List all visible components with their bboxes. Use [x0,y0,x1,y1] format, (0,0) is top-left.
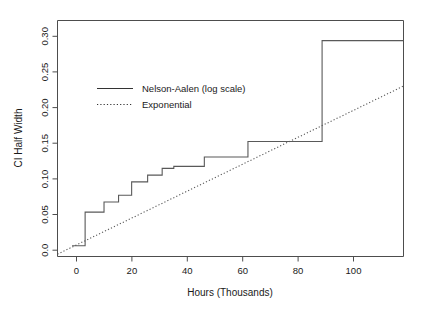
y-tick-label-005: 0.05 [39,205,50,224]
y-axis-title: CI Half Width [13,109,24,168]
x-tick-label-60: 60 [237,265,248,276]
ci-half-width-chart: 0 20 40 60 80 100 0.0 0.05 0.10 0.15 0.2… [0,0,425,311]
y-tick-label-010: 0.10 [39,170,50,189]
y-tick-label-015: 0.15 [39,134,50,153]
y-tick-label-030: 0.30 [39,27,50,46]
x-tick-label-40: 40 [182,265,193,276]
y-tick-label-0: 0.0 [39,244,50,257]
x-axis-title: Hours (Thousands) [187,287,273,298]
x-tick-label-0: 0 [74,265,79,276]
x-tick-label-20: 20 [127,265,138,276]
x-tick-label-80: 80 [293,265,304,276]
legend-label-exponential: Exponential [142,99,192,110]
y-tick-label-025: 0.25 [39,63,50,82]
chart-figure: 0 20 40 60 80 100 0.0 0.05 0.10 0.15 0.2… [0,0,425,311]
legend-label-nelson-aalen: Nelson-Aalen (log scale) [142,83,246,94]
y-tick-label-020: 0.20 [39,98,50,117]
x-tick-label-100: 100 [346,265,362,276]
